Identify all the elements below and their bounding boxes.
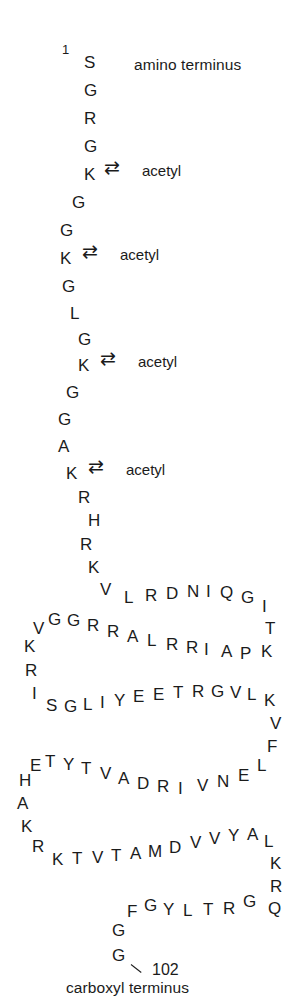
residue-letter: G [84,82,97,99]
residue-letter: R [87,617,99,634]
residue-letter: G [78,331,91,348]
residue-letter: V [270,715,281,732]
histone-sequence-diagram: 1 amino terminus SGRGKGGKGLGKGGAKRHRK ⇄a… [0,0,292,1002]
residue-letter: R [223,900,235,917]
residue-letter: T [111,847,121,864]
residue-letter: R [270,878,282,895]
residue-letter: K [264,692,275,709]
residue-letter: K [270,855,281,872]
residue-letter: D [166,585,178,602]
end-residue-number: 102 [152,961,179,979]
residue-letter: A [58,438,69,455]
residue-letter: G [144,897,157,914]
residue-letter: G [112,922,125,939]
residue-letter: G [58,411,71,428]
equilibrium-arrow-icon: ⇄ [88,457,104,476]
residue-letter: V [100,581,111,598]
residue-letter: I [204,641,209,658]
residue-letter: G [72,194,85,211]
residue-letter: L [147,632,156,649]
residue-letter: R [25,662,37,679]
residue-letter: G [60,222,73,239]
residue-letter: Q [268,900,281,917]
residue-letter: D [169,839,181,856]
residue-letter: R [145,587,157,604]
residue-letter: L [257,757,266,774]
residue-letter: D [137,775,149,792]
residue-letter: E [30,757,41,774]
residue-letter: T [72,850,82,867]
residue-letter: R [78,489,90,506]
residue-letter: V [100,765,111,782]
residue-letter: R [157,778,169,795]
residue-letter: V [33,620,44,637]
residue-letter: T [265,620,275,637]
residue-letter: Y [63,756,74,773]
residue-letter: G [84,138,97,155]
residue-letter: T [45,753,55,770]
residue-letter: K [261,643,272,660]
residue-letter: P [240,645,251,662]
residue-letter: L [70,305,79,322]
residue-letter: I [32,685,37,702]
residue-letter: G [211,683,224,700]
residue-letter: L [264,833,273,850]
residue-letter: A [221,643,232,660]
residue-letter: A [130,845,141,862]
residue-letter: G [67,612,80,629]
residue-letter: K [84,166,95,183]
acetyl-label: acetyl [126,461,165,478]
residue-letter: T [203,901,213,918]
residue-letter: G [243,893,256,910]
residue-letter: A [127,628,138,645]
residue-letter: R [80,536,92,553]
residue-letter: S [84,54,95,71]
residue-letter: A [118,770,129,787]
residue-letter: Y [163,901,174,918]
carboxyl-terminus-label: carboxyl terminus [66,979,189,997]
residue-letter: R [107,623,119,640]
residue-letter: G [64,698,77,715]
residue-letter: V [230,684,241,701]
residue-letter: K [78,357,89,374]
residue-letter: K [21,818,32,835]
equilibrium-arrow-icon: ⇄ [82,242,98,261]
residue-letter: V [190,834,201,851]
residue-letter: G [66,384,79,401]
equilibrium-arrow-icon: ⇄ [100,349,116,368]
equilibrium-arrow-icon: ⇄ [104,158,120,177]
residue-letter: H [88,512,100,529]
residue-letter: K [88,559,99,576]
residue-letter: L [83,696,92,713]
residue-letter: F [127,903,137,920]
residue-letter: T [173,684,183,701]
residue-letter: I [206,583,211,600]
acetyl-label: acetyl [142,162,181,179]
residue-letter: Y [228,827,239,844]
residue-letter: N [217,773,229,790]
residue-letter: L [247,686,256,703]
residue-letter: Q [220,584,233,601]
residue-letter: N [187,583,199,600]
residue-letter: A [17,795,28,812]
residue-letter: K [66,465,77,482]
terminus-tick-mark [131,964,142,973]
residue-letter: H [19,772,31,789]
residue-letter: G [62,278,75,295]
residue-letter: I [100,694,105,711]
residue-letter: R [166,636,178,653]
residue-letter: E [153,686,164,703]
acetyl-label: acetyl [120,246,159,263]
residue-letter: E [238,767,249,784]
residue-letter: G [112,947,125,964]
residue-letter: K [24,638,35,655]
residue-letter: I [178,780,183,797]
amino-terminus-label: amino terminus [134,56,241,74]
residue-letter: V [197,777,208,794]
residue-letter: R [32,838,44,855]
residue-letter: G [48,611,61,628]
residue-letter: R [84,110,96,127]
residue-letter: T [81,760,91,777]
residue-letter: L [124,589,133,606]
residue-letter: K [52,851,63,868]
